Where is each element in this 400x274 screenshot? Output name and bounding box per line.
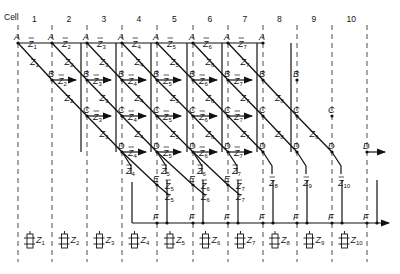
cell-symbol-5: Z5 [164, 231, 186, 248]
zbar-D-5: Z5 [160, 166, 171, 177]
d-out [297, 152, 306, 174]
z-CD-3: Z3 [99, 129, 110, 140]
z-AB-6: Z6 [205, 57, 216, 68]
cell-symbol-9: Z9 [304, 231, 326, 248]
node-B-2: B [83, 69, 89, 79]
flipflop-icon [167, 234, 173, 248]
zbar-out-8: Z8 [268, 178, 279, 189]
node-F-10: F [363, 212, 369, 222]
zbar-A-3: Z3 [96, 39, 107, 50]
cell-symbol-2: Z2 [59, 231, 81, 248]
node-B-5: B [189, 69, 195, 79]
z-AB-7: Z7 [240, 57, 251, 68]
node-A-1: A [47, 32, 54, 42]
node-B-3: B [118, 69, 124, 79]
zbar-B-3: Z3 [92, 76, 103, 87]
cell-symbol-label-4: Z4 [140, 235, 151, 246]
cell-symbol-label-10: Z10 [350, 235, 364, 246]
z-CD-4: Z4 [134, 129, 145, 140]
junction-dot [236, 221, 239, 224]
z-E-5: Z5 [164, 192, 175, 203]
node-D-10: D [363, 141, 370, 151]
node-A-3: A [117, 32, 124, 42]
zbar-B-6: Z6 [198, 76, 209, 87]
node-E-4: E [153, 174, 160, 184]
cell-symbol-label-5: Z5 [175, 235, 186, 246]
node-D-7: D [259, 141, 266, 151]
junction-dot [375, 221, 378, 224]
cell-symbol-10: Z10 [339, 231, 364, 248]
z-BC-5: Z5 [169, 93, 180, 104]
zbar-A-1: Z1 [27, 39, 38, 50]
cell-symbol-4: Z4 [129, 231, 151, 248]
node-F-9: F [328, 212, 334, 222]
flipflop-icon [272, 234, 278, 248]
node-C-2: C [83, 105, 90, 115]
zbar-C-3: Z3 [92, 112, 103, 123]
zbar-D-4: Z4 [127, 148, 138, 159]
zbar-A-2: Z2 [61, 39, 72, 50]
cell-number-1: 1 [32, 14, 37, 24]
cell-number-8: 8 [277, 14, 282, 24]
junction-dot [340, 221, 343, 224]
flipflop-icon [238, 234, 244, 248]
node-F-4: F [153, 212, 159, 222]
zbar-A-7: Z7 [237, 39, 248, 50]
zbar-B-4: Z4 [127, 76, 138, 87]
node-C-4: C [153, 105, 160, 115]
cell-number-9: 9 [312, 14, 317, 24]
node-A-5: A [188, 32, 195, 42]
flipflop-icon [203, 234, 209, 248]
node-B-6: B [224, 69, 230, 79]
junction-dot [271, 221, 274, 224]
node-F-7: F [259, 212, 265, 222]
junction-dot [201, 221, 204, 224]
cell-number-3: 3 [102, 14, 107, 24]
z-CD-6: Z6 [205, 129, 216, 140]
z-CD-5: Z5 [169, 129, 180, 140]
node-D-9: D [328, 141, 335, 151]
node-F-5: F [189, 212, 195, 222]
node-B-4: B [153, 69, 159, 79]
cell-symbol-1: Z1 [24, 231, 46, 248]
cell-header-label: Cell [4, 12, 19, 22]
node-A-7: A [258, 32, 265, 42]
node-F-8: F [293, 212, 299, 222]
zbar-B-5: Z5 [162, 76, 173, 87]
cell-number-7: 7 [243, 14, 248, 24]
zbar-A-5: Z5 [166, 39, 177, 50]
cell-symbol-7: Z7 [235, 231, 257, 248]
node-B-7: B [259, 69, 265, 79]
zbar-E-7: Z7 [235, 181, 246, 192]
zbar-C-5: Z5 [162, 112, 173, 123]
cell-symbol-label-6: Z6 [211, 235, 222, 246]
cell-header: Cell12345678910 [4, 12, 356, 24]
node-A-0: A [13, 32, 20, 42]
flipflop-icon [132, 234, 138, 248]
cellular-logic-diagram: AAAAAAAABBBBBBBBCCCCCCCCDDDDDDDDEEEFFFFF… [0, 0, 400, 274]
node-C-8: C [293, 105, 300, 115]
z-BC-4: Z4 [134, 93, 145, 104]
node-A-2: A [82, 32, 89, 42]
node-C-3: C [118, 105, 125, 115]
cell-symbol-label-8: Z8 [280, 235, 291, 246]
z-BC-8: Z8 [274, 93, 285, 104]
z-BC-2: Z2 [64, 93, 75, 104]
cell-number-2: 2 [67, 14, 72, 24]
node-D-8: D [293, 141, 300, 151]
cell-symbol-6: Z6 [200, 231, 222, 248]
zbar-B-2: Z2 [57, 76, 68, 87]
zbar-D-7: Z7 [231, 166, 242, 177]
node-C-5: C [189, 105, 196, 115]
node-D-3: D [118, 141, 125, 151]
cell-symbol-label-9: Z9 [315, 235, 326, 246]
z-CD-7: Z7 [240, 129, 251, 140]
z-AB-4: Z4 [134, 57, 145, 68]
cell-number-10: 10 [347, 14, 357, 24]
junction-dot [165, 221, 168, 224]
z-BC-7: Z7 [240, 93, 251, 104]
bottom-cell-symbols: Z1Z2Z3Z4Z5Z6Z7Z8Z9Z10 [24, 231, 363, 248]
z-CD-9: Z9 [309, 129, 320, 140]
zbar-D-4: Z4 [125, 166, 136, 177]
node-A-6: A [223, 32, 230, 42]
